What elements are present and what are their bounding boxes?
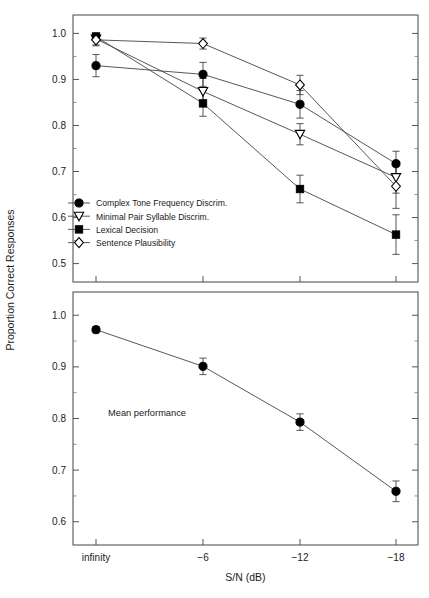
y-axis-title: Proportion Correct Responses — [4, 209, 16, 350]
xtick-label-0: infinity — [82, 552, 110, 563]
data-point-marker — [92, 62, 100, 70]
data-point-marker — [392, 487, 400, 495]
chart-figure: 0.50.60.70.80.91.00.60.70.80.91.0infinit… — [0, 0, 429, 598]
top-ytick-label: 0.8 — [52, 120, 66, 131]
data-point-marker — [296, 418, 304, 426]
bottom-ytick-label: 0.7 — [52, 465, 66, 476]
bottom-ytick-label: 0.6 — [52, 516, 66, 527]
data-point-marker — [392, 231, 399, 238]
legend-label-1: Minimal Pair Syllable Discrim. — [96, 212, 209, 222]
bottom-ytick-label: 0.9 — [52, 361, 66, 372]
data-point-marker — [199, 70, 207, 78]
data-point-marker — [295, 130, 304, 139]
data-point-marker — [199, 362, 207, 370]
data-point-marker — [92, 326, 100, 334]
legend-marker-filled-square — [75, 226, 82, 233]
top-ytick-label: 0.7 — [52, 166, 66, 177]
xtick-label-1: −6 — [197, 552, 209, 563]
data-point-marker — [199, 39, 208, 49]
legend-marker-open-diamond — [75, 238, 84, 248]
data-point-marker — [198, 88, 207, 97]
bottom-ytick-label: 0.8 — [52, 413, 66, 424]
top-ytick-label: 1.0 — [52, 28, 66, 39]
xtick-label-3: −18 — [388, 552, 405, 563]
data-point-marker — [296, 100, 304, 108]
data-point-marker — [199, 100, 206, 107]
xtick-label-2: −12 — [292, 552, 309, 563]
series-line — [96, 39, 396, 178]
legend-label-3: Sentence Plausibility — [96, 238, 176, 248]
top-ytick-label: 0.9 — [52, 74, 66, 85]
series-line — [96, 40, 396, 186]
figure-container: 0.50.60.70.80.91.00.60.70.80.91.0infinit… — [0, 0, 429, 598]
mean-performance-annotation: Mean performance — [108, 408, 186, 418]
top-ytick-label: 0.6 — [52, 212, 66, 223]
data-point-marker — [296, 185, 303, 192]
data-point-marker — [392, 160, 400, 168]
series-line — [96, 66, 396, 164]
top-ytick-label: 0.5 — [52, 258, 66, 269]
legend-label-2: Lexical Decision — [96, 225, 158, 235]
legend-label-0: Complex Tone Frequency Discrim. — [96, 198, 227, 208]
legend-marker-filled-circle — [75, 199, 83, 207]
x-axis-title: S/N (dB) — [225, 571, 265, 583]
bottom-panel-frame — [73, 292, 418, 545]
bottom-ytick-label: 1.0 — [52, 310, 66, 321]
